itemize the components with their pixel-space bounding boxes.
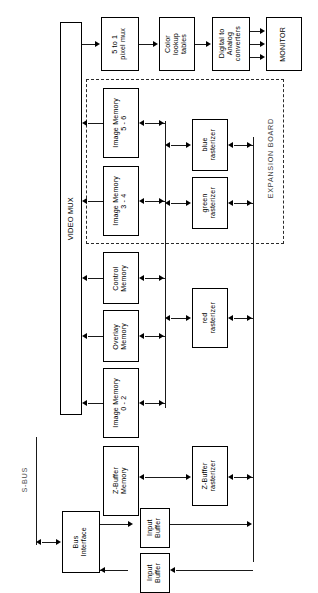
arrowhead-left [100, 567, 105, 573]
block-color-lut[interactable]: Color lookup tables [159, 17, 195, 71]
arrowhead-left [139, 333, 144, 339]
expansion-board-label: EXPANSION BOARD [266, 118, 275, 198]
arrowhead-left [228, 315, 233, 321]
block-dac[interactable]: Digital to Analog converters [212, 17, 250, 71]
link-bus-green [171, 203, 186, 204]
link-bus-blue [171, 145, 186, 146]
link-ovlmem-videomux [88, 336, 103, 337]
block-image-memory-34[interactable]: Image Memory 3 - 4 [103, 166, 139, 236]
block-label: red rasterizer [202, 302, 218, 334]
arrowhead-left [165, 142, 170, 148]
block-green-rasterizer[interactable]: green rasterizer [192, 177, 228, 229]
block-label: Image Memory 0 - 2 [113, 378, 129, 428]
block-label: 5 to 1 pixel mux [112, 28, 128, 60]
block-label: Z-Buffer Memory [113, 467, 129, 494]
arrowhead-right [159, 333, 164, 339]
block-bus-interface[interactable]: Bus Interface [62, 511, 100, 573]
link-colorlut-dac [195, 44, 206, 45]
arrowhead-right [95, 41, 100, 47]
link-ib1-rbus [170, 524, 247, 525]
arrowhead-left [139, 275, 144, 281]
block-label: Bus Interface [73, 527, 89, 556]
link-businterface-ib1 [100, 524, 128, 525]
arrowhead-left [228, 474, 233, 480]
arrowhead-right [247, 474, 252, 480]
arrowhead-left [228, 142, 233, 148]
arrowhead-left [228, 200, 233, 206]
block-label: Digital to Analog converters [219, 26, 243, 61]
arrowhead-right [247, 315, 252, 321]
arrowhead-right [128, 521, 133, 527]
arrowhead-right [247, 200, 252, 206]
arrowhead-right [186, 315, 191, 321]
arrowhead-right [247, 142, 252, 148]
arrowhead-right [159, 198, 164, 204]
arrowhead-right [153, 41, 158, 47]
block-label: blue rasterizer [202, 129, 218, 161]
link-dac-monitor-g [250, 44, 260, 45]
s-bus-line [36, 437, 37, 545]
block-zbuffer-rasterizer[interactable]: Z-Buffer rasterizer [192, 446, 228, 506]
link-im02-videomux [88, 403, 103, 404]
block-input-buffer-1[interactable]: Input Buffer [140, 508, 170, 548]
block-label: Overlay Memory [113, 323, 129, 350]
arrowhead-right [206, 41, 211, 47]
block-label: Control Memory [113, 265, 129, 292]
arrowhead-right [186, 474, 191, 480]
block-label: green rasterizer [202, 187, 218, 219]
arrowhead-right [260, 54, 265, 60]
link-bus-red [171, 318, 186, 319]
link-ctrlmem-videomux [88, 278, 103, 279]
arrowhead-left [165, 315, 170, 321]
block-image-memory-56[interactable]: Image Memory 5 - 6 [103, 88, 139, 158]
link-dac-monitor-b [250, 57, 260, 58]
s-bus-label: S-BUS [20, 467, 29, 492]
arrowhead-left [139, 198, 144, 204]
block-red-rasterizer[interactable]: red rasterizer [192, 288, 228, 348]
arrowhead-left [82, 120, 87, 126]
block-label: Color lookup tables [165, 33, 189, 55]
arrowhead-right [260, 41, 265, 47]
arrowhead-left [36, 539, 41, 545]
block-label: MONITOR [280, 27, 288, 62]
arrowhead-left [139, 400, 144, 406]
block-label: VIDEO MUX [67, 197, 75, 240]
block-monitor[interactable]: MONITOR [266, 17, 302, 71]
arrowhead-right [260, 28, 265, 34]
arrowhead-left [170, 567, 175, 573]
link-zmem-zrast [145, 477, 186, 478]
arrowhead-left [165, 200, 170, 206]
block-video-mux[interactable]: VIDEO MUX [60, 22, 82, 415]
block-overlay-memory[interactable]: Overlay Memory [103, 310, 139, 362]
link-im34-videomux [88, 201, 103, 202]
block-label: Input Buffer [147, 518, 163, 538]
arrowhead-right [186, 142, 191, 148]
block-pixel-mux[interactable]: 5 to 1 pixel mux [101, 17, 139, 71]
block-zbuffer-memory[interactable]: Z-Buffer Memory [103, 446, 139, 516]
block-label: Input Buffer [147, 563, 163, 583]
link-rbus-ib2 [176, 570, 253, 571]
arrowhead-left [139, 120, 144, 126]
link-pixelmux-colorlut [139, 44, 153, 45]
block-label: Image Memory 3 - 4 [113, 176, 129, 226]
rasterizer-bus-vertical [253, 137, 254, 562]
block-label: Image Memory 5 - 6 [113, 98, 129, 148]
link-videomux-pixelmux [82, 44, 95, 45]
block-control-memory[interactable]: Control Memory [103, 252, 139, 304]
link-im56-videomux [88, 123, 103, 124]
link-sbus-businterface [42, 542, 56, 543]
link-dac-monitor-r [250, 31, 260, 32]
arrowhead-right [56, 539, 61, 545]
block-blue-rasterizer[interactable]: blue rasterizer [192, 119, 228, 171]
arrowhead-left [82, 275, 87, 281]
arrowhead-right [247, 521, 252, 527]
arrowhead-right [159, 120, 164, 126]
arrowhead-left [82, 198, 87, 204]
arrowhead-right [186, 200, 191, 206]
block-label: Z-Buffer rasterizer [202, 460, 218, 492]
block-image-memory-02[interactable]: Image Memory 0 - 2 [103, 368, 139, 438]
block-input-buffer-2[interactable]: Input Buffer [140, 553, 170, 593]
arrowhead-right [159, 275, 164, 281]
arrowhead-left [82, 400, 87, 406]
